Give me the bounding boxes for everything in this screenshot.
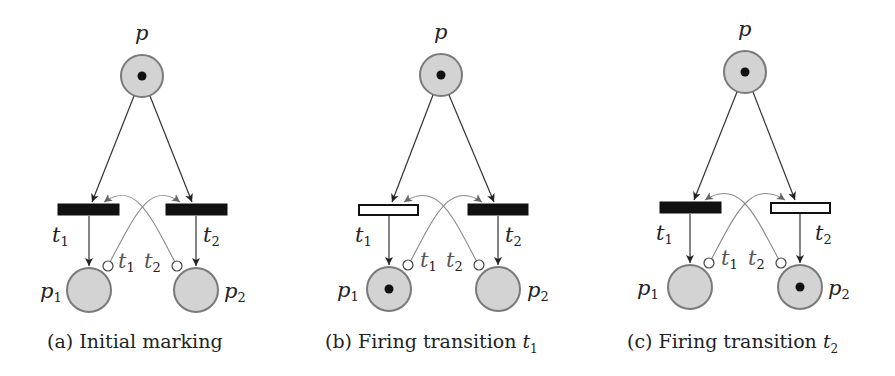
caption-sub: 1 [530,342,538,356]
transition-t1 [359,205,418,215]
place-p2-label: p2 [828,276,850,302]
inhibitor-label-t1: t1 [118,249,135,275]
inhibitor-label-t2: t2 [446,248,463,274]
place-p1-label: p1 [40,279,62,305]
inhibitor-head [704,258,714,268]
caption-text: (c) Firing transition [627,330,823,352]
token [437,71,446,80]
inhibitor-label-t1: t1 [721,246,738,272]
transition-t1 [58,204,119,215]
place-p-label: p [434,20,447,44]
arc-p-to-t1 [92,96,134,202]
arc-p-to-t1 [694,92,737,200]
caption-math: t [823,330,831,352]
inhibitor-head [103,261,113,271]
caption-a: (a) Initial marking [47,330,223,352]
token [385,285,394,294]
place-p2 [174,268,218,312]
place-p2 [476,267,520,311]
inhibitor-label-t2: t2 [144,249,161,275]
transition-t2 [771,203,830,213]
token [796,283,805,292]
place-p-label: p [738,17,751,41]
place-p2-label: p2 [224,279,246,305]
caption-c: (c) Firing transition t2 [627,330,838,356]
transition-t1-label: t1 [52,223,69,249]
arc-p-to-t2 [449,95,494,202]
inhibitor-head [403,260,413,270]
caption-sub: 2 [831,342,839,356]
transition-t2-label: t2 [815,221,832,247]
place-p1 [67,268,111,312]
caption-text: (b) Firing transition [325,330,522,352]
transition-t2 [468,204,528,215]
place-p-label: p [135,21,148,45]
place-p2-label: p2 [527,278,549,304]
token [138,72,147,81]
caption-text: (a) Initial marking [47,330,223,352]
transition-t2-label: t2 [505,223,522,249]
transition-t2-label: t2 [203,223,220,249]
arc-p-to-t2 [150,96,192,202]
panel-b: p t1 t2 t1 t2 p1 p2 [337,20,549,311]
place-p1-label: p1 [637,276,659,302]
arc-p-to-t2 [753,92,795,200]
caption-b: (b) Firing transition t1 [325,330,538,356]
petri-net-figure: p t1 t2 t1 t2 p1 p2 p t1 t2 [0,0,895,376]
token [741,68,750,77]
caption-math: t [522,330,530,352]
inhibitor-head [776,258,786,268]
transition-t1-label: t1 [656,221,673,247]
transition-t1-label: t1 [355,223,372,249]
inhibitor-label-t2: t2 [748,246,765,272]
panel-c: p t1 t2 t1 t2 p1 p2 [637,17,850,309]
inhibitor-head [172,261,182,271]
transition-t1 [660,202,721,213]
transition-t2 [166,204,227,215]
panel-a: p t1 t2 t1 t2 p1 p2 [40,21,246,312]
place-p1-label: p1 [337,278,359,304]
inhibitor-head [474,260,484,270]
place-p1 [668,265,712,309]
inhibitor-label-t1: t1 [420,248,437,274]
arc-p-to-t1 [392,95,433,202]
